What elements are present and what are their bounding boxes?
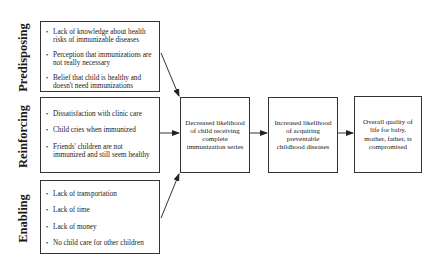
arrow-enabling [161, 174, 179, 218]
arrow-predisposing [161, 53, 179, 96]
connector-arrows [0, 0, 439, 271]
